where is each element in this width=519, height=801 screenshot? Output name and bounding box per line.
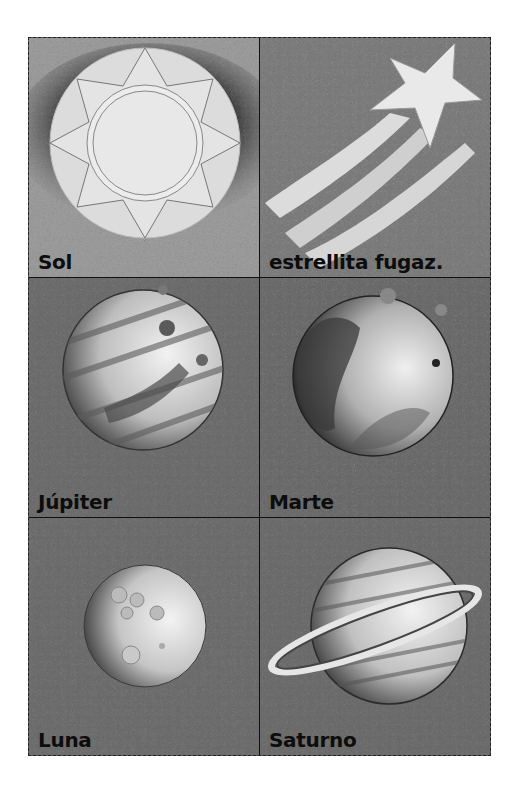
card-estrellita-fugaz: estrellita fugaz.: [260, 38, 490, 277]
moon-icon: [29, 518, 259, 755]
saturn-icon: [260, 518, 490, 755]
card-label: Sol: [38, 251, 72, 273]
column-divider: [259, 38, 260, 755]
card-saturno: Saturno: [260, 518, 490, 755]
mars-icon: [260, 278, 490, 517]
card-label: Saturno: [269, 729, 356, 751]
flashcard-sheet: Sol estrellita fugaz.: [28, 37, 491, 756]
card-jupiter: Júpiter: [29, 278, 259, 517]
card-label: estrellita fugaz.: [269, 251, 443, 273]
card-marte: Marte: [260, 278, 490, 517]
jupiter-icon: [29, 278, 259, 517]
shooting-star-icon: [260, 38, 490, 277]
card-label: Luna: [38, 729, 92, 751]
sun-icon: [29, 38, 259, 277]
card-sol: Sol: [29, 38, 259, 277]
card-luna: Luna: [29, 518, 259, 755]
card-label: Júpiter: [38, 491, 112, 513]
card-label: Marte: [269, 491, 334, 513]
